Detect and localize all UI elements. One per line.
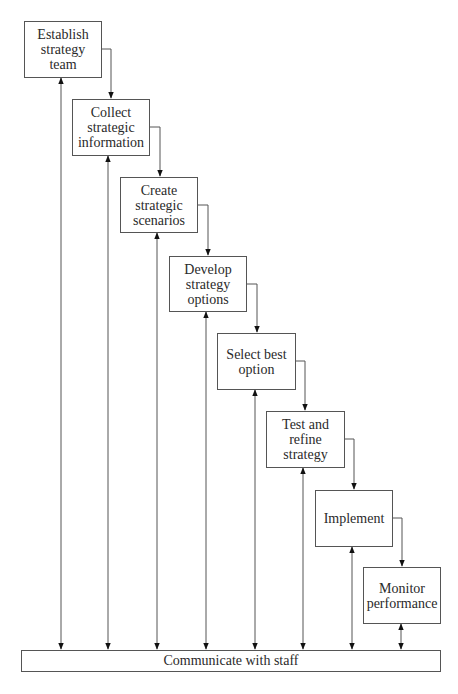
step-label: Collect strategic information [76, 105, 146, 150]
bar-label: Communicate with staff [163, 653, 298, 669]
step-label: Implement [324, 511, 385, 526]
step-establish-strategy-team: Establish strategy team [24, 21, 102, 78]
step-collect-strategic-information: Collect strategic information [72, 99, 150, 156]
step-implement: Implement [315, 490, 393, 547]
step-label: Select best option [221, 347, 292, 377]
step-monitor-performance: Monitor performance [363, 567, 441, 624]
step-develop-strategy-options: Develop strategy options [169, 256, 247, 312]
step-test-and-refine-strategy: Test and refine strategy [266, 411, 345, 468]
step-select-best-option: Select best option [217, 333, 296, 390]
step-label: Develop strategy options [173, 262, 243, 307]
step-label: Establish strategy team [28, 27, 98, 72]
step-create-strategic-scenarios: Create strategic scenarios [120, 177, 198, 233]
step-label: Create strategic scenarios [124, 183, 194, 228]
step-label: Test and refine strategy [270, 417, 341, 462]
step-label: Monitor performance [367, 581, 438, 611]
communicate-with-staff-bar: Communicate with staff [21, 650, 441, 672]
